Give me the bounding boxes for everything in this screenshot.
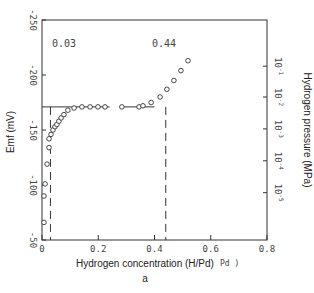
x-tick-label: 0.6 [203, 244, 219, 254]
data-point [47, 137, 52, 142]
y-axis-right-label: Hydrogen pressure (MPa) [302, 72, 313, 187]
data-point [66, 108, 71, 113]
y-left-tick-label: -250 [28, 9, 38, 31]
y-axis-left-label: Emf (mV) [5, 111, 16, 153]
data-point [186, 58, 191, 63]
data-point [149, 100, 154, 105]
data-point [42, 194, 47, 199]
data-point [172, 78, 177, 83]
x-tick-label: 0.4 [146, 244, 162, 254]
annotation-0.44: 0.44 [152, 38, 176, 49]
annotation-0.03: 0.03 [52, 38, 76, 49]
y-left-tick-label: -100 [28, 174, 38, 196]
data-point [179, 68, 184, 73]
data-point [96, 105, 101, 110]
data-point [103, 105, 108, 110]
panel-label: a [142, 273, 148, 284]
data-point [158, 95, 163, 100]
data-point [45, 162, 50, 167]
chart: 00.20.40.60.8-250-200-150-100-5010-110-2… [0, 0, 314, 293]
x-axis-label-residue: Pd ) [220, 259, 239, 268]
data-point [165, 87, 170, 92]
data-point [120, 105, 125, 110]
y-right-tick-label: 10-4 [273, 152, 285, 170]
y-left-tick-label: -200 [28, 64, 38, 86]
x-tick-label: 0.8 [259, 244, 275, 254]
data-point [43, 182, 48, 187]
data-point [88, 105, 93, 110]
x-tick-label: 0 [39, 244, 44, 254]
y-right-tick-label: 10-1 [273, 57, 285, 75]
data-point [49, 132, 54, 137]
x-axis-label: Hydrogen concentration (H/Pd) [76, 258, 214, 269]
y-left-tick-label: -50 [28, 232, 38, 248]
y-left-tick-label: -150 [28, 119, 38, 141]
data-point [141, 104, 146, 109]
y-right-tick-label: 10-3 [273, 120, 285, 138]
y-right-tick-label: 10-5 [273, 184, 285, 202]
data-point [80, 105, 85, 110]
data-point [62, 112, 67, 117]
data-point [72, 106, 77, 111]
plot-frame [42, 20, 267, 240]
data-point [47, 145, 52, 150]
data-point [42, 220, 47, 225]
y-right-tick-label: 10-2 [273, 88, 285, 106]
x-tick-label: 0.2 [90, 244, 106, 254]
